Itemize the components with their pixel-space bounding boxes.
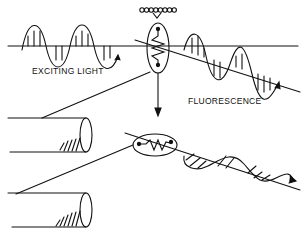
- cylinder-lower: [8, 193, 92, 227]
- fluorescence-diagram: EXCITING LIGHT FLUORESCENCE: [0, 0, 308, 234]
- exciting-light-wave: [22, 25, 120, 68]
- transition-arrow: [155, 73, 161, 116]
- emitted-wave: [184, 154, 296, 183]
- cylinder-upper: [8, 118, 92, 152]
- projection-line-upper: [42, 72, 150, 118]
- fluorophore-upright: [147, 23, 169, 73]
- bead-chain: [140, 8, 177, 18]
- fluorescence-wave: [184, 34, 280, 99]
- fluorescence-label: FLUORESCENCE: [188, 96, 262, 106]
- fluorophore-rotated: [125, 133, 300, 190]
- exciting-light-label: EXCITING LIGHT: [32, 66, 104, 76]
